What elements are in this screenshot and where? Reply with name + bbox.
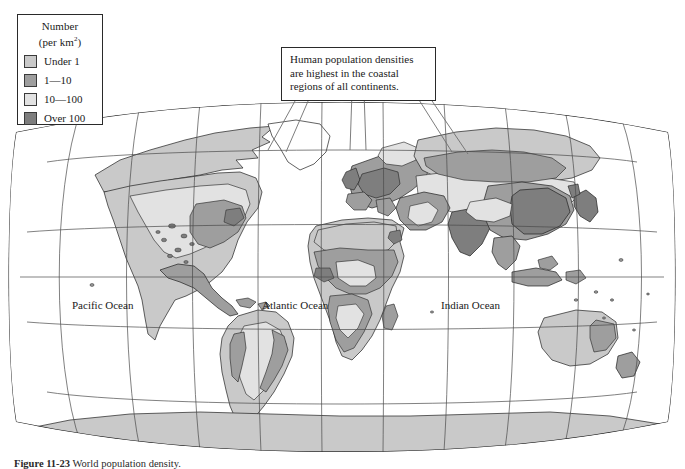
map-legend: Number (per km2) Under 1 1—10 10—100 Ove…: [17, 14, 103, 125]
figure-caption-number: Figure 11-23: [14, 458, 70, 469]
legend-item-10-100: 10—100: [18, 90, 102, 109]
legend-title-line2: (per km2): [18, 33, 102, 48]
figure-caption-text: World population density.: [73, 458, 181, 469]
legend-swatch-under-1: [24, 55, 37, 68]
legend-label-over-100: Over 100: [44, 113, 85, 124]
landmass-antarctica: [18, 412, 664, 452]
figure-caption: Figure 11-23 World population density.: [14, 458, 181, 469]
legend-swatch-1-10: [24, 74, 37, 87]
map-annotation-callout: Human population densities are highest i…: [281, 47, 436, 101]
legend-unit-suffix: ): [78, 35, 82, 47]
legend-item-1-10: 1—10: [18, 71, 102, 90]
ocean-label-indian: Indian Ocean: [441, 299, 500, 311]
callout-line-3: regions of all continents.: [290, 80, 427, 94]
legend-title: Number (per km2): [18, 15, 102, 48]
legend-swatch-over-100: [24, 112, 37, 125]
legend-rows: Under 1 1—10 10—100 Over 100: [18, 52, 102, 128]
figure-container: Number (per km2) Under 1 1—10 10—100 Ove…: [0, 0, 685, 469]
callout-line-1: Human population densities: [290, 53, 427, 67]
legend-label-under-1: Under 1: [44, 56, 80, 67]
ocean-label-atlantic: Atlantic Ocean: [262, 299, 328, 311]
legend-item-over-100: Over 100: [18, 109, 102, 128]
legend-item-under-1: Under 1: [18, 52, 102, 71]
legend-unit-prefix: (per km: [39, 35, 74, 47]
legend-swatch-10-100: [24, 93, 37, 106]
legend-label-10-100: 10—100: [44, 94, 83, 105]
ocean-label-pacific: Pacific Ocean: [72, 299, 133, 311]
callout-line-2: are highest in the coastal: [290, 67, 427, 81]
legend-label-1-10: 1—10: [44, 75, 72, 86]
legend-title-line1: Number: [18, 20, 102, 33]
